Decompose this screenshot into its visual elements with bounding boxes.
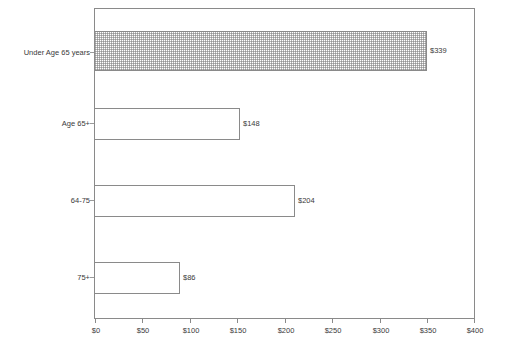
category-label-0: Under Age 65 years — [2, 48, 90, 57]
x-axis-tick-0 — [95, 319, 96, 323]
x-axis-tick-4 — [285, 319, 286, 323]
category-label-2: 64-75 — [2, 196, 90, 205]
bar-value-3: $86 — [183, 273, 196, 282]
bar-chart: Under Age 65 years $339 Age 65+ $148 64-… — [0, 0, 505, 344]
bar-2 — [94, 185, 295, 217]
x-axis-tick-3 — [237, 319, 238, 323]
x-axis-label-2: $100 — [183, 326, 200, 335]
category-label-3: 75+ — [2, 273, 90, 282]
x-axis-tick-6 — [380, 319, 381, 323]
x-axis-label-4: $200 — [278, 326, 295, 335]
x-axis-label-5: $250 — [325, 326, 342, 335]
x-axis-label-1: $50 — [137, 326, 150, 335]
x-axis-tick-1 — [142, 319, 143, 323]
category-label-1: Age 65+ — [2, 119, 90, 128]
x-axis-label-0: $0 — [92, 326, 100, 335]
x-axis-tick-7 — [427, 319, 428, 323]
x-axis-tick-5 — [332, 319, 333, 323]
x-axis-label-6: $300 — [373, 326, 390, 335]
x-axis-label-8: $400 — [467, 326, 484, 335]
x-axis-tick-8 — [474, 319, 475, 323]
x-axis-label-7: $350 — [420, 326, 437, 335]
bar-3 — [94, 262, 180, 294]
bar-1 — [94, 108, 240, 140]
bar-value-1: $148 — [243, 119, 260, 128]
x-axis-label-3: $150 — [230, 326, 247, 335]
bar-value-2: $204 — [298, 196, 315, 205]
bar-value-0: $339 — [430, 46, 447, 55]
bar-0 — [94, 31, 427, 71]
x-axis-tick-2 — [190, 319, 191, 323]
